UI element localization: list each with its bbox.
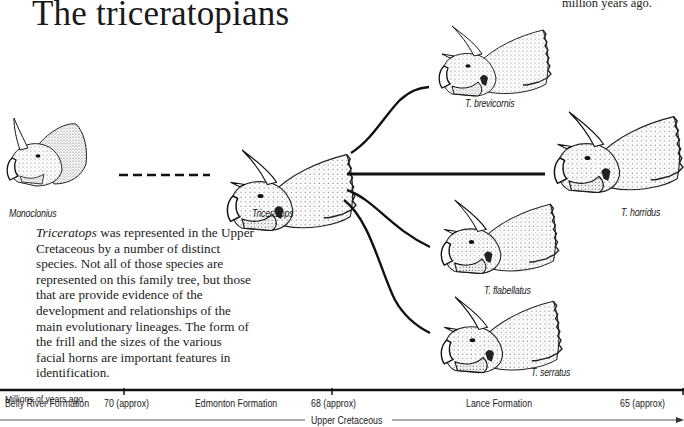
monoclonius-skull-illustration <box>7 118 86 186</box>
paragraph-text: was represented in the Upper Cretaceous … <box>36 225 254 380</box>
timeline-label-68: 68 (approx) <box>311 398 356 409</box>
timeline-label-edmonton: Edmonton Formation <box>195 398 277 409</box>
species-label-monoclonius: Monoclonius <box>9 208 56 219</box>
species-label-flabellatus: T. flabellatus <box>484 285 531 296</box>
timeline-label-belly-river: Belly River Formation <box>5 398 89 409</box>
horridus-skull-illustration <box>554 112 683 193</box>
species-label-serratus: T. serratus <box>531 367 570 378</box>
branch-line-serratus <box>344 200 430 333</box>
serratus-skull-illustration <box>441 297 562 373</box>
timeline-label-70: 70 (approx) <box>104 398 149 409</box>
timeline-label-65: 65 (approx) <box>620 398 665 409</box>
period-label: Upper Cretaceous <box>311 415 382 426</box>
brevicornis-skull-illustration <box>439 26 551 96</box>
period-span-arrowhead <box>676 417 684 423</box>
species-label-triceratops: Triceratops <box>252 208 293 219</box>
description-paragraph: Triceratops was represented in the Upper… <box>36 225 254 381</box>
timeline-label-lance: Lance Formation <box>466 398 532 409</box>
species-label-horridus: T. horridus <box>621 207 660 218</box>
flabellatus-skull-illustration <box>441 200 558 274</box>
branch-line-brevicornis <box>351 87 429 153</box>
paragraph-italic-lead: Triceratops <box>36 225 97 240</box>
species-label-brevicornis: T. brevicornis <box>465 98 515 109</box>
